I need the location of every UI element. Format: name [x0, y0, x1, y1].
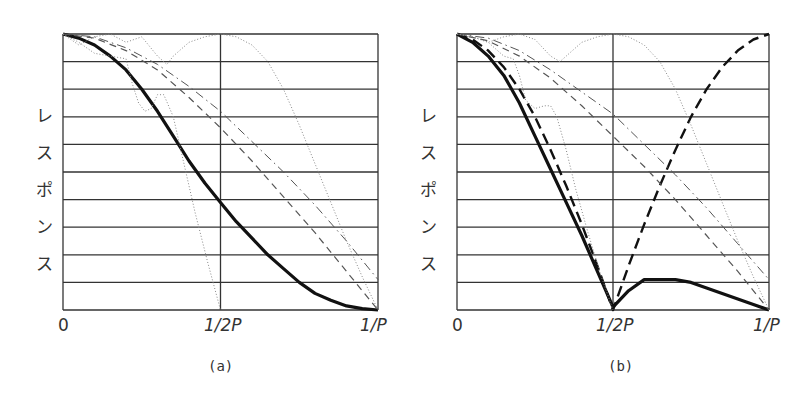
- ylabel-char: ス: [416, 135, 440, 172]
- ylabel-char: ポ: [32, 172, 56, 209]
- x-tick-0-b: 0: [452, 315, 463, 335]
- ylabel-char: ポ: [416, 172, 440, 209]
- y-axis-label-b: レ ス ポ ン ス: [416, 98, 440, 283]
- ylabel-char: ス: [32, 135, 56, 172]
- ylabel-char: レ: [416, 98, 440, 135]
- chart-panel-b: レ ス ポ ン ス 0 1/2P 1/P (b): [400, 0, 812, 393]
- caption-b: (b): [608, 358, 633, 374]
- x-tick-half-b: 1/2P: [596, 315, 634, 335]
- chart-panel-a: レ ス ポ ン ス 0 1/2P 1/P (a): [0, 0, 400, 393]
- ylabel-char: ン: [416, 209, 440, 246]
- x-tick-half-a: 1/2P: [204, 315, 242, 335]
- x-tick-one-a: 1/P: [360, 315, 387, 335]
- x-tick-one-b: 1/P: [753, 315, 780, 335]
- ylabel-char: レ: [32, 98, 56, 135]
- ylabel-char: ス: [32, 246, 56, 283]
- x-tick-0-a: 0: [58, 315, 69, 335]
- caption-a: (a): [208, 358, 233, 374]
- y-axis-label-a: レ ス ポ ン ス: [32, 98, 56, 283]
- ylabel-char: ス: [416, 246, 440, 283]
- ylabel-char: ン: [32, 209, 56, 246]
